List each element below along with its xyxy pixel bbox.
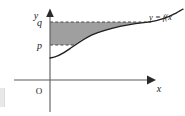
figure-container: y x O q p y = f(x: [0, 0, 185, 116]
y-tick-label-q: q: [37, 17, 42, 28]
origin-label: O: [36, 86, 43, 96]
x-axis-label: x: [156, 83, 162, 94]
x-axis-arrowhead: [147, 76, 156, 85]
function-plot: y x O q p y = f(x: [0, 0, 185, 116]
curve-equation-label: y = f(x: [148, 12, 172, 22]
y-tick-label-p: p: [36, 40, 42, 51]
shaded-area-region: [50, 22, 150, 45]
y-axis-arrowhead: [46, 9, 54, 18]
